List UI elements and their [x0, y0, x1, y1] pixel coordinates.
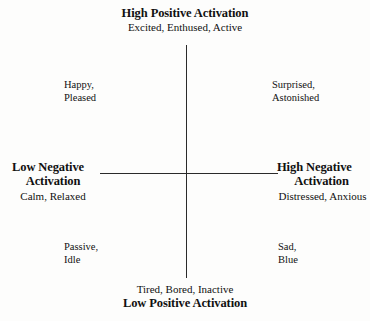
quadrant-label-bottom-left: Passive, Idle [64, 241, 98, 267]
pole-label-bottom: Tired, Bored, Inactive Low Positive Acti… [0, 283, 370, 310]
quadrant-bottom-right-line1: Sad, [278, 241, 298, 254]
pole-label-left: Low Negative Activation Calm, Relaxed [0, 160, 100, 202]
pole-bottom-title: Low Positive Activation [0, 296, 370, 310]
pole-bottom-examples: Tired, Bored, Inactive [0, 283, 370, 296]
pole-top-title: High Positive Activation [0, 6, 370, 20]
quadrant-label-top-right: Surprised, Astonished [272, 79, 319, 105]
quadrant-top-left-line1: Happy, [64, 79, 96, 92]
pole-label-right: High Negative Activation Distressed, Anx… [277, 160, 370, 202]
circumplex-affect-diagram: High Positive Activation Excited, Enthus… [0, 0, 370, 321]
pole-right-title-line1: High Negative [277, 160, 370, 174]
pole-top-examples: Excited, Enthused, Active [0, 21, 370, 34]
pole-label-top: High Positive Activation Excited, Enthus… [0, 6, 370, 34]
quadrant-label-top-left: Happy, Pleased [64, 79, 96, 105]
pole-left-title-line2: Activation [0, 174, 100, 188]
pole-right-examples: Distressed, Anxious [277, 190, 370, 203]
quadrant-bottom-left-line1: Passive, [64, 241, 98, 254]
pole-left-title-line1: Low Negative [0, 160, 100, 174]
quadrant-top-right-line1: Surprised, [272, 79, 319, 92]
horizontal-axis-line [100, 173, 278, 174]
pole-right-title-line2: Activation [277, 174, 370, 188]
quadrant-top-left-line2: Pleased [64, 92, 96, 105]
pole-left-examples: Calm, Relaxed [0, 190, 100, 203]
vertical-axis-line [186, 45, 187, 278]
quadrant-label-bottom-right: Sad, Blue [278, 241, 298, 267]
quadrant-top-right-line2: Astonished [272, 92, 319, 105]
quadrant-bottom-right-line2: Blue [278, 254, 298, 267]
quadrant-bottom-left-line2: Idle [64, 254, 98, 267]
